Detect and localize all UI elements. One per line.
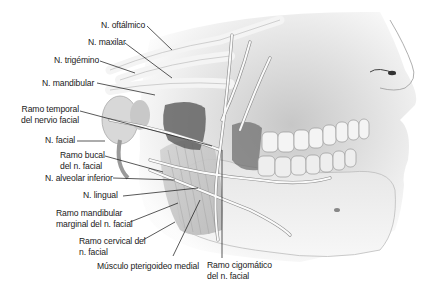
anatomy-figure: N. oftálmico N. maxilar N. trigémino N. … bbox=[0, 0, 436, 299]
label-ramo-mandibular-marginal: Ramo mandibular marginal del n. facial bbox=[56, 208, 133, 229]
label-ramo-temporal: Ramo temporal del nervio facial bbox=[17, 104, 79, 125]
label-n-mandibular: N. mandibular bbox=[42, 78, 94, 89]
label-n-trigemino: N. trigémino bbox=[54, 55, 99, 66]
label-n-alveolar-inferior: N. alveolar inferior bbox=[45, 173, 113, 184]
label-ramo-cigomatico: Ramo cigomático del n. facial bbox=[207, 260, 272, 281]
label-n-oftalmico: N. oftálmico bbox=[101, 20, 145, 31]
label-musculo-pterigoideo: Músculo pterigoideo medial bbox=[97, 261, 199, 272]
label-n-facial: N. facial bbox=[45, 135, 75, 146]
label-ramo-bucal: Ramo bucal del n. facial bbox=[60, 150, 105, 171]
label-ramo-cervical: Ramo cervical del n. facial bbox=[79, 236, 146, 257]
label-n-maxilar: N. maxilar bbox=[88, 37, 126, 48]
label-n-lingual: N. lingual bbox=[83, 190, 118, 201]
